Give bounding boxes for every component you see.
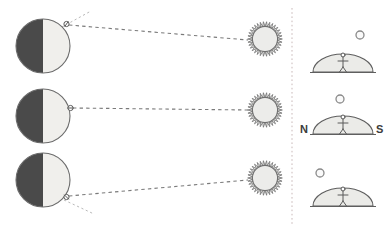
earth-globe-1 — [16, 89, 70, 143]
sky-view-0 — [310, 31, 376, 73]
earth-night-side-0 — [16, 19, 43, 73]
sky-view-1 — [310, 95, 376, 135]
observer-marker-0 — [64, 21, 69, 26]
cardinal-label-north: N — [300, 124, 308, 135]
geometry-row-2 — [16, 153, 282, 214]
observer-marker-1 — [67, 105, 73, 110]
earth-globe-0 — [16, 19, 70, 73]
observer-head-sky-1 — [341, 115, 345, 119]
diagram-canvas: N S — [0, 0, 391, 236]
sky-view-2 — [310, 169, 376, 207]
geometry-row-0 — [16, 11, 282, 73]
sun-1 — [248, 93, 283, 128]
sight-line-2 — [69, 180, 248, 196]
earth-globe-2 — [16, 153, 70, 207]
earth-day-side-0 — [43, 19, 70, 73]
sky-sun-1 — [336, 95, 344, 103]
sun-2 — [248, 161, 283, 196]
tangent-line-2 — [64, 200, 94, 214]
sight-line-0 — [69, 25, 248, 40]
sun-disc-2 — [252, 165, 277, 190]
sun-disc-1 — [252, 97, 277, 122]
cardinal-label-south: S — [376, 124, 383, 135]
observer-marker-2 — [64, 194, 69, 199]
sun-0 — [248, 22, 283, 57]
sun-disc-0 — [252, 26, 277, 51]
observer-head-sky-0 — [341, 53, 345, 57]
earth-day-side-1 — [43, 89, 70, 143]
geometry-row-1 — [16, 89, 282, 143]
earth-night-side-1 — [16, 89, 43, 143]
observer-head-sky-2 — [341, 187, 345, 191]
sky-sun-2 — [316, 169, 324, 177]
sight-line-1 — [73, 108, 248, 110]
seasons-diagram-svg — [0, 0, 391, 236]
sky-sun-0 — [356, 31, 364, 39]
earth-night-side-2 — [16, 153, 43, 207]
